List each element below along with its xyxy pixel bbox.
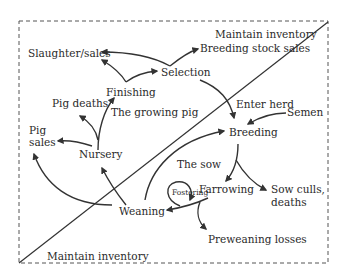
label-the-growing-pig: The growing pig (111, 106, 198, 118)
label-semen: Semen (287, 106, 323, 118)
label-selection: Selection (161, 66, 211, 78)
arrow-semen-to-breeding (248, 113, 286, 124)
label-breeding: Breeding (229, 126, 278, 138)
label-maintain-inventory-bottom: Maintain inventory (47, 250, 149, 262)
label-maintain-inventory-top: Maintain inventory (215, 28, 317, 40)
label-pig-sales-line1: Pig (29, 124, 46, 136)
arrow-farrowing-to-preweaning (198, 202, 206, 229)
label-preweaning-losses: Preweaning losses (208, 233, 307, 245)
label-fostering: Fostering (172, 187, 208, 199)
label-enter-herd: Enter herd (236, 98, 294, 110)
arrow-finishing-to-selection (126, 71, 157, 82)
arrow-breeding-to-farrowing (226, 144, 238, 181)
arrow-weaning-to-pig-sales (34, 154, 112, 205)
label-slaughter-sales: Slaughter/sales (28, 47, 111, 59)
label-nursery: Nursery (79, 148, 123, 160)
label-sow-culls-line1: Sow culls, (271, 183, 325, 195)
arrow-selection-to-breeding-stock (170, 49, 198, 66)
label-pig-sales-line2: sales (29, 136, 56, 148)
arrow-nursery-to-pig-deaths (80, 116, 98, 140)
arrow-weaning-to-nursery (102, 168, 126, 205)
label-finishing: Finishing (106, 86, 156, 98)
label-weaning: Weaning (119, 205, 165, 217)
arrow-farrowing-to-weaning (167, 198, 208, 210)
label-sow-culls-line2: deaths (271, 196, 307, 208)
arrow-nursery-to-pig-sales (58, 141, 92, 146)
label-the-sow: The sow (177, 158, 221, 170)
arrow-finishing-to-slaughter (102, 60, 126, 82)
arrow-selection-to-slaughter (102, 52, 170, 66)
label-pig-deaths: Pig deaths (52, 97, 108, 109)
label-breeding-stock-sales: Breeding stock sales (200, 42, 310, 54)
